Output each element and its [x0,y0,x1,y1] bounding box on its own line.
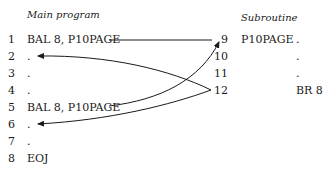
flow-arrows [0,0,331,174]
return-arrow-2 [38,90,211,124]
call-arrow-2 [109,42,219,106]
return-arrow-1 [38,56,211,90]
